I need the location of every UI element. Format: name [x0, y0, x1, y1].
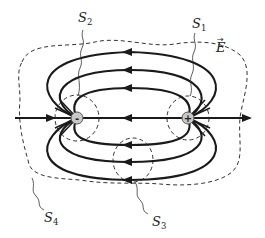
label-s2: S2: [78, 10, 92, 27]
vector-arrow-icon: →: [217, 35, 224, 44]
arrow-icon: [46, 114, 56, 122]
field-line-top-inner: [74, 88, 189, 118]
arrow-icon: [122, 84, 132, 92]
field-line-bottom-middle: [60, 118, 202, 162]
field-line-bottom-outer: [47, 118, 216, 180]
arrow-icon: [122, 114, 132, 122]
arrow-icon: [242, 114, 252, 122]
label-s1: S1: [192, 16, 206, 33]
leader-s3: [135, 182, 148, 214]
arrow-icon: [122, 158, 132, 166]
positive-charge: +: [182, 112, 194, 124]
arrow-icon: [122, 48, 132, 56]
label-s4: S4: [44, 210, 58, 227]
field-line-bottom-inner: [74, 118, 189, 145]
svg-text:+: +: [184, 113, 192, 124]
negative-charge: -: [71, 112, 83, 124]
svg-text:-: -: [75, 113, 79, 124]
leader-s2: [78, 30, 83, 96]
dipole-field-diagram: - + S2 S1 E → S4 S3: [0, 0, 265, 238]
label-s3: S3: [152, 214, 166, 231]
arrow-icon: [122, 141, 132, 149]
leader-s4: [32, 178, 44, 210]
arrow-icon: [122, 66, 132, 74]
field-line-top-middle: [60, 70, 202, 118]
